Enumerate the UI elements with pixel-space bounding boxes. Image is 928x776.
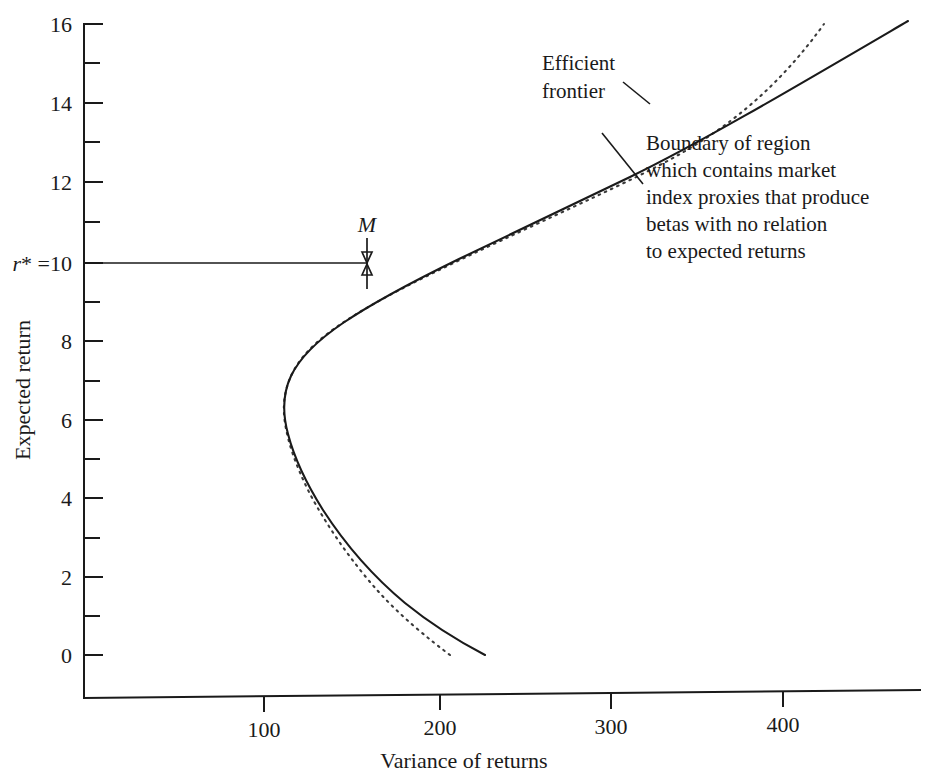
boundary-region-curve [284, 21, 908, 655]
y-tick-label-2: 2 [61, 565, 72, 590]
y-tick-label-8: 8 [61, 329, 72, 354]
efficient-frontier-label-line2: frontier [542, 79, 605, 103]
efficient-frontier-label-line1: Efficient [542, 51, 615, 75]
axis-lines [84, 24, 920, 698]
x-tick-label-100: 100 [248, 717, 281, 742]
m-marker-label: M [357, 212, 378, 237]
y-tick-label-14: 14 [50, 91, 72, 116]
x-tick-label-300: 300 [595, 714, 628, 739]
market-portfolio-marker: M [357, 212, 378, 289]
y-tick-label-4: 4 [61, 486, 72, 511]
chart-figure: 16 14 12 r* =10 8 6 4 2 0 100 200 300 40… [0, 0, 928, 776]
annotation-boundary-region: Boundary of region which contains market… [602, 131, 869, 263]
x-axis-title: Variance of returns [380, 748, 547, 773]
annotation-efficient-frontier: Efficient frontier [542, 51, 650, 104]
boundary-label-line3: index proxies that produce [646, 185, 869, 209]
boundary-label-line5: to expected returns [646, 239, 806, 263]
y-tick-label-10-rstar: r* =10 [13, 251, 72, 276]
boundary-label-line4: betas with no relation [646, 212, 828, 236]
boundary-label-line1: Boundary of region [646, 131, 811, 155]
y-tick-label-6: 6 [61, 408, 72, 433]
boundary-label-line2: which contains market [646, 158, 836, 182]
x-axis-tick-labels: 100 200 300 400 [248, 712, 800, 742]
efficient-frontier-leader-line [623, 82, 650, 104]
efficient-frontier-curve [284, 24, 824, 655]
y-tick-label-16: 16 [50, 12, 72, 37]
x-tick-label-400: 400 [767, 712, 800, 737]
boundary-leader-line [602, 133, 643, 184]
efficient-frontier-chart: 16 14 12 r* =10 8 6 4 2 0 100 200 300 40… [0, 0, 928, 776]
y-tick-label-12: 12 [50, 170, 72, 195]
y-tick-label-0: 0 [61, 643, 72, 668]
y-axis-title: Expected return [10, 320, 35, 460]
y-axis-ticks [84, 24, 103, 655]
x-axis-line [84, 690, 920, 698]
x-tick-label-200: 200 [424, 715, 457, 740]
